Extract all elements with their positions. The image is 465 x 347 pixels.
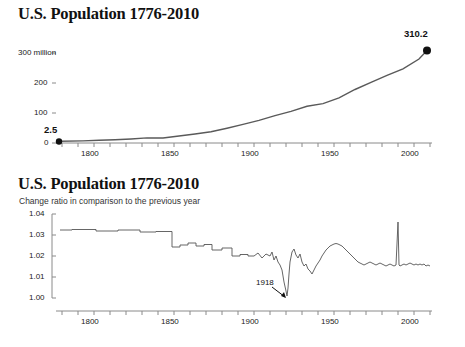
panel1-ytick-100: 100	[34, 108, 47, 117]
panel2-plot	[0, 170, 465, 347]
panel2-xtick-2000: 2000	[401, 317, 419, 326]
panel1-xtick-1950: 1950	[321, 149, 339, 158]
panel2-ytick-102: 1.02	[29, 251, 45, 260]
panel1-ytick-0: 0	[44, 138, 48, 147]
panel2-ytick-101: 1.01	[29, 272, 45, 281]
year-1918-arrow	[272, 287, 286, 298]
panel2-xtick-1850: 1850	[161, 317, 179, 326]
population-total-panel: U.S. Population 1776-2010	[0, 0, 465, 170]
chart-page: U.S. Population 1776-2010	[0, 0, 465, 347]
panel1-xtick-1850: 1850	[161, 149, 179, 158]
panel1-xtick-1900: 1900	[241, 149, 259, 158]
population-change-ratio-panel: U.S. Population 1776-2010 Change ratio i…	[0, 170, 465, 347]
end-value-label: 310.2	[404, 28, 428, 39]
population-curve	[60, 50, 427, 141]
year-1918-label: 1918	[256, 278, 274, 287]
start-point	[56, 138, 62, 144]
panel2-xtick-1900: 1900	[241, 317, 259, 326]
panel2-x-ticks	[62, 311, 430, 315]
panel2-ytick-100: 1.00	[29, 293, 45, 302]
panel1-plot	[0, 0, 465, 170]
change-ratio-curve	[60, 222, 430, 296]
panel2-xtick-1950: 1950	[321, 317, 339, 326]
panel2-y-ticks	[52, 214, 56, 298]
panel1-xtick-2000: 2000	[401, 149, 419, 158]
panel1-ytick-200: 200	[34, 78, 47, 87]
panel1-xtick-1800: 1800	[81, 149, 99, 158]
panel2-xtick-1800: 1800	[81, 317, 99, 326]
panel1-ytick-300: 300 million	[18, 48, 56, 57]
end-point	[423, 46, 431, 54]
start-value-label: 2.5	[44, 124, 57, 135]
panel2-ytick-104: 1.04	[29, 209, 45, 218]
panel1-x-ticks	[62, 143, 430, 147]
panel2-ytick-103: 1.03	[29, 230, 45, 239]
